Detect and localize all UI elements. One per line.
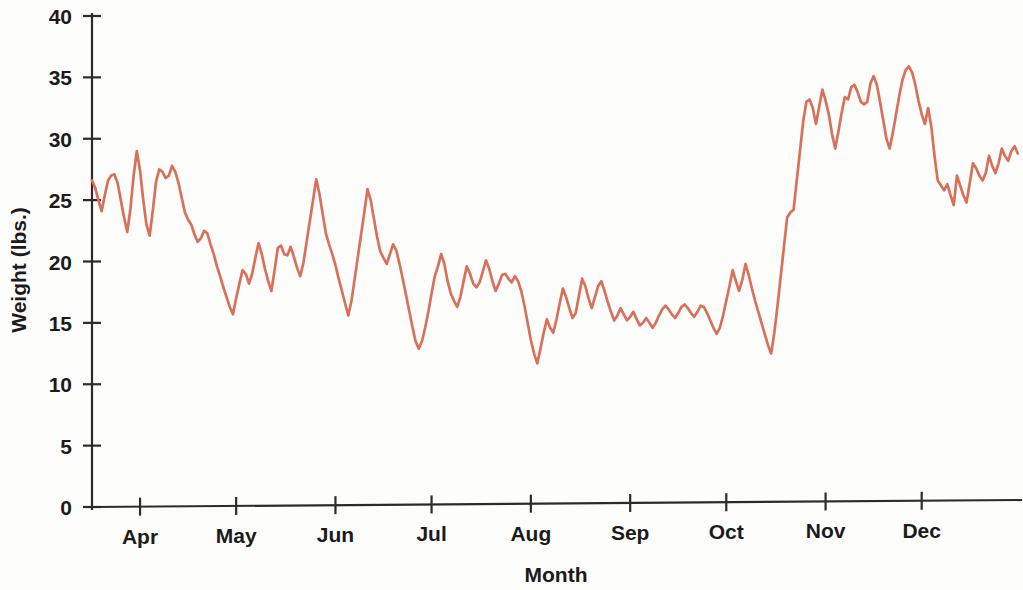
x-axis-tick-label: Apr [122, 525, 158, 548]
x-axis-tick-label: Dec [902, 519, 941, 542]
y-axis-tick-label: 5 [60, 435, 72, 458]
y-axis-tick-label: 15 [49, 312, 73, 335]
line-chart-figure: 0510152025303540 AprMayJunJulAugSepOctNo… [0, 0, 1023, 590]
x-axis-tick-label: Jun [317, 523, 354, 546]
y-axis-tick-label: 10 [49, 373, 72, 396]
x-axis-tick-label: Sep [611, 521, 650, 544]
y-axis-tick-label: 35 [49, 66, 73, 89]
y-axis-tick-label: 0 [60, 496, 72, 519]
y-axis-tick-label: 30 [49, 128, 72, 151]
y-axis-tick-labels: 0510152025303540 [49, 5, 73, 519]
x-axis-tick-label: Oct [709, 520, 744, 543]
weight-series-line [92, 66, 1018, 363]
y-axis: 0510152025303540 [49, 5, 101, 519]
x-axis-title: Month [525, 563, 588, 586]
x-axis-tick-label: May [216, 524, 257, 547]
chart-canvas: 0510152025303540 AprMayJunJulAugSepOctNo… [0, 0, 1023, 590]
x-axis-line [92, 500, 1021, 507]
y-axis-title: Weight (lbs.) [7, 207, 30, 333]
x-axis-tick-label: Jul [416, 522, 446, 545]
x-axis-tick-label: Aug [510, 522, 551, 545]
x-axis-tick-label: Nov [806, 519, 846, 542]
x-axis-ticks [140, 492, 922, 516]
y-axis-tick-label: 40 [49, 5, 72, 28]
x-axis: AprMayJunJulAugSepOctNovDec [92, 492, 1021, 548]
y-axis-tick-label: 20 [49, 251, 72, 274]
x-axis-tick-labels: AprMayJunJulAugSepOctNovDec [122, 519, 941, 548]
y-axis-tick-label: 25 [49, 189, 73, 212]
